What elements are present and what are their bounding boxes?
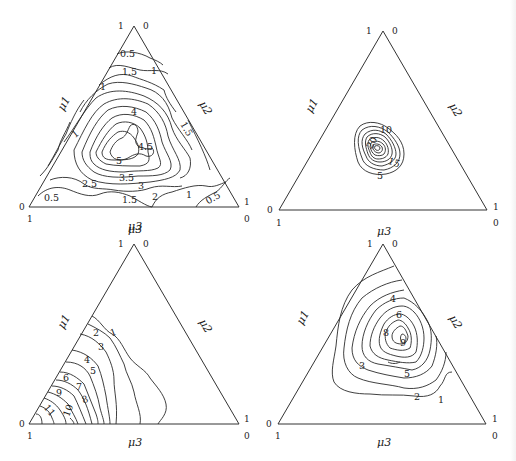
svg-text:3.5: 3.5 [119, 172, 134, 183]
svg-text:1: 1 [108, 326, 117, 338]
svg-text:1: 1 [100, 81, 106, 92]
contour-labels: 4 6 8 9 3 5 2 1 [359, 293, 444, 405]
tick-label: 1 [27, 214, 33, 224]
svg-text:5: 5 [404, 368, 410, 379]
svg-text:4.5: 4.5 [138, 141, 153, 152]
tick-label: 1 [366, 26, 372, 36]
svg-text:5: 5 [377, 170, 383, 181]
tick-label: 1 [244, 414, 250, 424]
svg-text:3: 3 [359, 360, 365, 371]
svg-text:2: 2 [93, 327, 99, 338]
svg-text:1.5: 1.5 [122, 66, 137, 77]
svg-text:4: 4 [390, 293, 396, 304]
svg-text:0.5: 0.5 [120, 48, 135, 59]
contour-labels: 1 2 3 4 5 6 7 8 9 10 11 [42, 326, 118, 418]
svg-text:8: 8 [383, 327, 389, 338]
axis-label-mu2: μ2 [446, 313, 464, 332]
svg-text:4: 4 [131, 106, 137, 117]
axis-label-mu1: μ1 [55, 94, 73, 113]
contour-lines [332, 266, 452, 397]
svg-text:1: 1 [186, 189, 192, 200]
tick-label: 1 [244, 197, 250, 207]
panel-top-left: 1 0 0 1 1 0 μ1 μ2 μ3 [19, 21, 250, 233]
svg-text:9: 9 [400, 337, 406, 348]
svg-text:5: 5 [116, 155, 122, 166]
page-edge-shadow [510, 0, 516, 461]
svg-text:5: 5 [90, 365, 96, 376]
axis-label-mu3: μ3 [377, 436, 391, 449]
tick-label: 0 [266, 419, 272, 429]
tick-label: 0 [267, 205, 273, 215]
svg-text:6: 6 [63, 372, 69, 383]
panel-top-right: 1 0 0 1 1 0 μ1 μ2 10 20 15 5 [267, 26, 499, 228]
tick-label: 1 [118, 21, 124, 31]
tick-label: 0 [244, 431, 250, 441]
tick-label: 1 [367, 239, 373, 249]
tick-label: 0 [19, 202, 25, 212]
ternary-contour-figure: 1 0 0 1 1 0 μ1 μ2 μ3 [0, 0, 516, 461]
svg-text:7: 7 [76, 381, 82, 392]
tick-label: 0 [392, 239, 398, 249]
tick-label: 1 [276, 218, 282, 228]
tick-label: 0 [19, 419, 25, 429]
tick-label: 1 [275, 431, 281, 441]
axis-label-mu1: μ1 [294, 308, 312, 327]
svg-text:6: 6 [396, 309, 402, 320]
tick-label: 0 [143, 239, 149, 249]
panel-bottom-right: μ3 1 0 0 1 1 0 μ1 μ2 μ3 4 6 8 9 3 5 [266, 225, 498, 449]
triangle-frame [279, 31, 487, 210]
tick-label: 1 [493, 202, 499, 212]
tick-label: 0 [143, 21, 149, 31]
svg-text:0.5: 0.5 [44, 192, 59, 203]
svg-text:10: 10 [61, 403, 75, 418]
contour-labels: 0.5 1 1.5 1 1.5 1 4 4.5 5 3.5 3 2.5 2 1.… [44, 48, 222, 206]
svg-text:2: 2 [152, 191, 158, 202]
tick-label: 0 [492, 431, 498, 441]
svg-text:0.5: 0.5 [204, 189, 223, 206]
svg-text:3: 3 [138, 180, 144, 191]
svg-text:1.5: 1.5 [178, 119, 195, 138]
axis-label-mu2: μ2 [196, 99, 214, 118]
svg-text:2.5: 2.5 [82, 178, 97, 189]
svg-text:2: 2 [414, 391, 420, 402]
tick-label: 1 [27, 431, 33, 441]
axis-label-mu3-top: μ3 [377, 225, 391, 238]
axis-label-mu1: μ1 [55, 312, 73, 331]
svg-text:1: 1 [438, 394, 444, 405]
svg-text:3: 3 [98, 341, 104, 352]
tick-label: 0 [493, 218, 499, 228]
axis-label-mu3: μ3 [128, 436, 142, 449]
svg-text:1: 1 [151, 65, 157, 76]
axis-label-mu1: μ1 [303, 96, 321, 115]
svg-text:1: 1 [69, 128, 81, 140]
axis-label-mu3-top: μ3 [128, 223, 142, 236]
svg-text:1.5: 1.5 [122, 194, 137, 205]
tick-label: 1 [492, 414, 498, 424]
tick-label: 1 [118, 239, 124, 249]
axis-label-mu2: μ2 [446, 101, 464, 120]
svg-text:10: 10 [380, 124, 392, 135]
tick-label: 0 [244, 214, 250, 224]
panel-bottom-left: μ3 1 0 0 1 1 0 μ1 μ2 μ3 1 2 3 [19, 223, 250, 449]
svg-text:4: 4 [84, 354, 90, 365]
tick-label: 0 [392, 26, 398, 36]
axis-label-mu2: μ2 [196, 317, 214, 336]
svg-text:9: 9 [56, 387, 62, 398]
